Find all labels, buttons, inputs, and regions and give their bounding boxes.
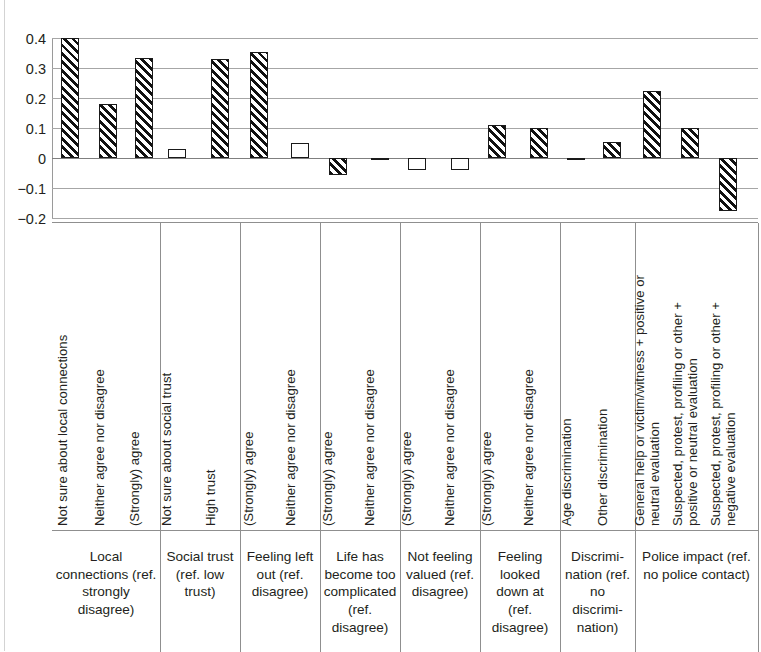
group-label-text: Local connections (ref. strongly disagre… xyxy=(52,548,160,619)
bar-8 xyxy=(371,158,389,160)
group-label-text: Feeling left out (ref. disagree) xyxy=(240,548,320,601)
bar-15 xyxy=(643,91,661,159)
group-label-6: Discrimi-nation (ref. no discrimi-nation… xyxy=(560,531,635,652)
bar-7 xyxy=(329,158,347,175)
category-label-8: Neither agree nor disagree xyxy=(362,369,377,526)
category-label-14: Other discrimination xyxy=(595,409,610,526)
category-label-17-line2: negative evaluation xyxy=(723,412,738,526)
category-label-12: Neither agree nor disagree xyxy=(521,369,536,526)
category-band-right-edge xyxy=(758,223,759,531)
category-label-15-line1: General help or victim/witness + positiv… xyxy=(632,275,647,526)
bar-13 xyxy=(567,158,585,160)
gridline-neg0.1: −0.1 xyxy=(52,188,758,189)
category-label-band: Not sure about local connections Neither… xyxy=(52,222,758,530)
group-band-right-edge xyxy=(758,531,759,652)
bar-3 xyxy=(168,149,186,158)
group-label-text: Discrimi-nation (ref. no discrimi-nation… xyxy=(560,548,635,636)
group-label-text: Police impact (ref. no police contact) xyxy=(635,548,758,583)
category-label-16-line2: positive or neutral evaluation xyxy=(685,358,700,526)
category-label-6: Neither agree nor disagree xyxy=(283,369,298,526)
category-label-2: (Strongly) agree xyxy=(127,431,142,526)
bar-0 xyxy=(61,38,79,158)
category-label-9: (Strongly) agree xyxy=(399,431,414,526)
category-label-0: Not sure about local connections xyxy=(55,335,70,526)
group-label-band: Local connections (ref. strongly disagre… xyxy=(52,530,758,651)
category-label-5: (Strongly) agree xyxy=(241,431,256,526)
bar-2 xyxy=(135,58,153,159)
y-tick-label-0: 0 xyxy=(0,152,46,167)
category-label-7: (Strongly) agree xyxy=(320,431,335,526)
group-label-0: Local connections (ref. strongly disagre… xyxy=(52,531,160,652)
bar-14 xyxy=(603,142,621,159)
gridline-zero: 0 xyxy=(52,158,758,159)
group-label-7: Police impact (ref. no police contact) xyxy=(635,531,758,652)
gridline-0.3: 0.3 xyxy=(52,68,758,69)
bar-10 xyxy=(451,158,469,170)
bar-11 xyxy=(488,125,506,158)
y-tick-label-0.2: 0.2 xyxy=(0,92,46,107)
category-label-11: (Strongly) agree xyxy=(479,431,494,526)
bar-4 xyxy=(211,59,229,158)
group-label-2: Feeling left out (ref. disagree) xyxy=(240,531,320,652)
bar-5 xyxy=(250,52,268,159)
category-label-17-line1: Suspected, protest, profiling or other + xyxy=(708,302,723,526)
category-label-16-line1: Suspected, protest, profiling or other + xyxy=(670,302,685,526)
plot-area: 0.4 0.3 0.2 0.1 0 −0.1 −0.2 xyxy=(52,38,758,218)
group-label-1: Social trust (ref. low trust) xyxy=(160,531,240,652)
y-tick-label-neg0.1: −0.1 xyxy=(0,182,46,197)
y-tick-label-0.4: 0.4 xyxy=(0,32,46,47)
group-label-text: Feeling looked down at (ref. disagree) xyxy=(480,548,560,636)
gridline-neg0.2: −0.2 xyxy=(52,218,758,219)
bar-17 xyxy=(719,158,737,211)
category-label-1: Neither agree nor disagree xyxy=(92,369,107,526)
group-label-text: Not feeling valued (ref. disagree) xyxy=(400,548,480,601)
group-label-3: Life has become too complicated (ref. di… xyxy=(320,531,400,652)
gridline-0.4: 0.4 xyxy=(52,38,758,39)
category-label-10: Neither agree nor disagree xyxy=(442,369,457,526)
y-tick-label-0.1: 0.1 xyxy=(0,122,46,137)
group-label-4: Not feeling valued (ref. disagree) xyxy=(400,531,480,652)
category-label-13: Age discrimination xyxy=(559,418,574,526)
category-label-4: High trust xyxy=(203,470,218,526)
group-label-text: Life has become too complicated (ref. di… xyxy=(320,548,400,636)
category-label-15-line2: neutral evaluation xyxy=(647,422,662,526)
bar-12 xyxy=(530,128,548,158)
category-label-3: Not sure about social trust xyxy=(159,373,174,526)
y-tick-label-0.3: 0.3 xyxy=(0,62,46,77)
bar-16 xyxy=(681,128,699,158)
bar-9 xyxy=(408,158,426,170)
bar-6 xyxy=(291,143,309,158)
group-label-text: Social trust (ref. low trust) xyxy=(160,548,240,601)
group-label-5: Feeling looked down at (ref. disagree) xyxy=(480,531,560,652)
bar-1 xyxy=(99,104,117,158)
y-tick-label-neg0.2: −0.2 xyxy=(0,212,46,227)
